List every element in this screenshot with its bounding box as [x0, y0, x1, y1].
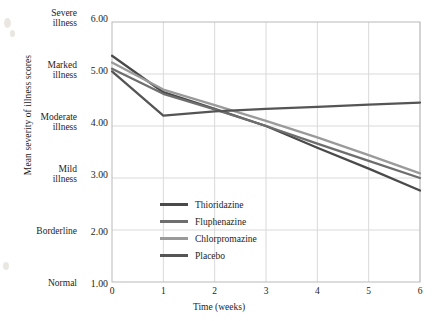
legend-label: Fluphenazine	[195, 217, 246, 227]
gridlines	[112, 22, 420, 282]
legend-item: Chlorpromazine	[160, 230, 257, 247]
legend-label: Thioridazine	[195, 200, 244, 210]
legend-item: Placebo	[160, 247, 257, 264]
plot-area	[0, 0, 438, 321]
x-axis-tick: 1	[153, 286, 173, 296]
legend-swatch	[160, 203, 188, 206]
x-axis-tick: 3	[256, 286, 276, 296]
chart-figure: Mean severity of illness scores Severeil…	[0, 0, 438, 321]
legend-item: Thioridazine	[160, 196, 257, 213]
legend-label: Placebo	[195, 251, 225, 261]
legend-swatch	[160, 220, 188, 223]
x-axis-tick: 6	[410, 286, 430, 296]
x-axis-title: Time (weeks)	[0, 302, 438, 312]
legend-label: Chlorpromazine	[195, 234, 257, 244]
legend-item: Fluphenazine	[160, 213, 257, 230]
legend-swatch	[160, 254, 188, 257]
legend-swatch	[160, 237, 188, 240]
x-axis-tick: 5	[359, 286, 379, 296]
x-axis-tick: 0	[102, 286, 122, 296]
x-axis-tick: 4	[307, 286, 327, 296]
x-axis-tick: 2	[205, 286, 225, 296]
legend: ThioridazineFluphenazineChlorpromazinePl…	[160, 196, 257, 264]
